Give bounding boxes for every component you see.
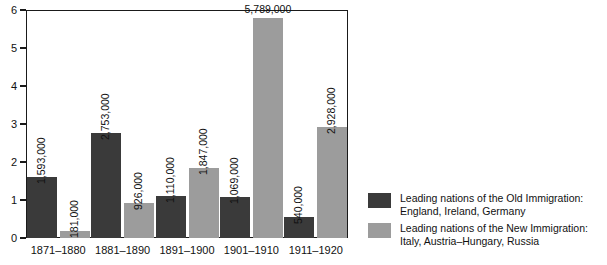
bar <box>189 168 219 238</box>
x-axis-label: 1871–1880 <box>31 243 86 257</box>
bar-value-label: 2,753,000 <box>100 94 111 141</box>
x-axis-label: 1881–1890 <box>95 243 150 257</box>
chart-legend: Leading nations of the Old Immigration: … <box>368 192 606 252</box>
legend-label-line1: Leading nations of the New Immigration: <box>400 222 588 235</box>
bar <box>317 127 347 238</box>
y-tick-mark <box>20 237 26 239</box>
bar-value-label: 1,593,000 <box>36 138 47 185</box>
y-tick-label: 0 <box>11 230 17 246</box>
legend-item-label: Leading nations of the New Immigration: … <box>400 222 588 247</box>
y-tick-label: 6 <box>11 2 17 18</box>
y-tick-label: 4 <box>11 78 17 94</box>
y-tick-label: 5 <box>11 40 17 56</box>
bar-value-label: 1,110,000 <box>165 157 176 203</box>
x-axis-label: 1911–1920 <box>289 243 343 257</box>
legend-label-line2: Italy, Austria–Hungary, Russia <box>400 235 588 248</box>
bar-value-label: 1,847,000 <box>198 128 209 175</box>
y-tick-label: 2 <box>11 154 17 170</box>
immigration-bar-chart: 0123456 1,593,000181,0002,753,000926,000… <box>0 0 607 265</box>
x-axis-label: 1901–1910 <box>224 243 279 257</box>
y-tick-mark <box>20 9 26 11</box>
bar-value-label: 2,928,000 <box>326 87 337 134</box>
bar-value-label: 181,000 <box>69 200 80 238</box>
new-immigration-swatch <box>368 223 391 238</box>
legend-label-line1: Leading nations of the Old Immigration: <box>400 192 583 205</box>
bar <box>27 177 57 238</box>
y-tick-label: 1 <box>11 192 17 208</box>
y-tick-mark <box>20 47 26 49</box>
bar-value-label: 926,000 <box>133 172 144 210</box>
bar-value-label: 5,789,000 <box>245 4 292 15</box>
y-tick-mark <box>20 85 26 87</box>
legend-item-new-immigration: Leading nations of the New Immigration: … <box>368 222 606 247</box>
x-axis-label: 1891–1900 <box>159 243 214 257</box>
bar <box>253 18 283 238</box>
y-tick-mark <box>20 199 26 201</box>
y-tick-mark <box>20 123 26 125</box>
legend-item-old-immigration: Leading nations of the Old Immigration: … <box>368 192 606 217</box>
bar-value-label: 1,069,000 <box>229 158 240 205</box>
old-immigration-swatch <box>368 193 391 208</box>
bar <box>91 133 121 238</box>
legend-item-label: Leading nations of the Old Immigration: … <box>400 192 583 217</box>
bar-value-label: 540,000 <box>293 187 304 225</box>
y-tick-label: 3 <box>11 116 17 132</box>
y-tick-mark <box>20 161 26 163</box>
legend-label-line2: England, Ireland, Germany <box>400 205 583 218</box>
